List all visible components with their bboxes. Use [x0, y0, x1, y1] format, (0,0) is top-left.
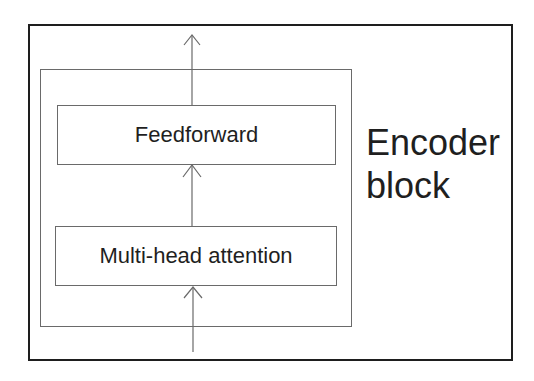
arrow-up-icon-middle — [183, 165, 201, 226]
arrow-up-icon-input — [184, 287, 202, 352]
arrows-layer — [0, 0, 534, 381]
arrow-up-icon-output — [184, 35, 200, 105]
